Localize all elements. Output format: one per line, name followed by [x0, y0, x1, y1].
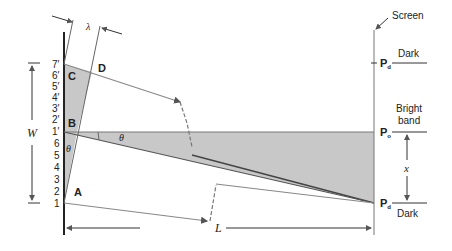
- point-c: C: [68, 70, 76, 82]
- svg-text:2: 2: [54, 186, 60, 197]
- svg-text:2′: 2′: [52, 114, 60, 125]
- point-a: A: [74, 186, 82, 198]
- l-label: L: [214, 221, 222, 235]
- lambda-label: λ: [85, 21, 91, 32]
- diffraction-diagram: λ W 7′ 6′ 5′ 4′ 3′ 2′ 1′ 6 5 4 3 2 1 C D…: [0, 0, 452, 251]
- bright-label-1: Bright: [396, 103, 422, 114]
- dark-top-label: Dark: [398, 48, 420, 59]
- bright-label-2: band: [398, 115, 420, 126]
- svg-text:6′: 6′: [52, 70, 60, 81]
- svg-text:4′: 4′: [52, 92, 60, 103]
- pd-bottom-label: Pd: [380, 197, 391, 210]
- svg-text:1′: 1′: [52, 126, 60, 137]
- svg-text:4: 4: [54, 162, 60, 173]
- svg-text:7′: 7′: [52, 59, 60, 70]
- lambda-arrow-right: [102, 28, 122, 34]
- theta-left: θ: [66, 143, 71, 154]
- svg-text:3′: 3′: [52, 103, 60, 114]
- point-d: D: [98, 62, 106, 74]
- slit-ticks: 7′ 6′ 5′ 4′ 3′ 2′ 1′ 6 5 4 3 2 1: [52, 59, 60, 209]
- pd-top-label: Pd: [380, 57, 391, 70]
- x-label: x: [403, 162, 409, 174]
- ray-bottom: [64, 203, 207, 221]
- w-label: W: [27, 126, 38, 140]
- screen-label: Screen: [392, 10, 424, 21]
- po-label: Po: [380, 126, 391, 139]
- point-b: B: [68, 117, 76, 129]
- lambda-arrow-left: [52, 16, 72, 22]
- svg-text:1: 1: [54, 198, 60, 209]
- tick-line: [64, 20, 73, 64]
- theta-right: θ: [119, 132, 124, 143]
- svg-text:6: 6: [54, 138, 60, 149]
- svg-text:5′: 5′: [52, 81, 60, 92]
- dark-bottom-label: Dark: [397, 208, 419, 219]
- svg-text:3: 3: [54, 174, 60, 185]
- svg-text:5: 5: [54, 150, 60, 161]
